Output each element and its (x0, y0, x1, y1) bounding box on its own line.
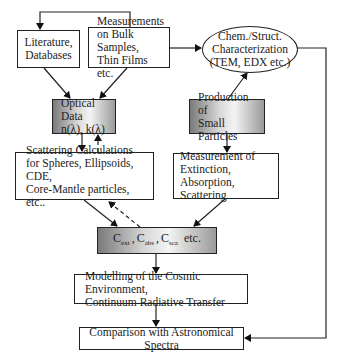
measurements-line-2: on Bulk Samples, (97, 28, 163, 54)
characterization-node: Chem./Struct. Characterization (TEM, EDX… (202, 26, 298, 73)
extinction-line-3: Scattering (180, 189, 272, 202)
extinction-node: Measurement of Extinction, Absorption, S… (173, 153, 279, 199)
literature-line-2: Databases (25, 49, 72, 62)
scattering-line-1: Scattering Calculations (26, 144, 147, 157)
literature-node: Literature, Databases (17, 30, 80, 68)
optical-data-node: Optical Data n(λ), k(λ) (52, 99, 116, 134)
production-line-2: Small Particles (198, 117, 258, 143)
cross-sections-node: Cext, Cabs, Csca etc. (97, 227, 217, 254)
comparison-node: Comparison with Astronomical Spectra (79, 327, 244, 350)
edge-extinction-crosssections (194, 199, 225, 226)
c-abs: Cabs (137, 232, 154, 250)
characterization-line-3: (TEM, EDX etc.) (210, 56, 290, 69)
comparison-line-1: Comparison with Astronomical Spectra (86, 326, 237, 352)
edge-literature-optical (44, 68, 70, 98)
scattering-line-3: Core-Mantle particles, etc.. (26, 183, 147, 209)
measurements-node: Measurements on Bulk Samples, Thin Films… (88, 27, 170, 68)
scattering-line-2: for Spheres, Ellipsoids, CDE, (26, 157, 147, 183)
optical-data-line-2: n(λ), k(λ) (61, 123, 109, 136)
modelling-line-1: Modelling of the Cosmic Environment, (85, 270, 241, 296)
characterization-line-2: Characterization (212, 43, 288, 56)
cross-sections-etc: etc. (184, 232, 201, 245)
optical-data-line-1: Optical Data (61, 97, 109, 123)
modelling-line-2: Continuum Radiative Transfer (85, 296, 241, 309)
cross-sections-label: Cext, Cabs, Csca etc. (104, 232, 210, 250)
c-ext: Cext (113, 232, 130, 250)
characterization-line-1: Chem./Struct. (218, 30, 282, 43)
production-node: Production of Small Particles (189, 99, 265, 134)
production-line-1: Production of (198, 91, 258, 117)
modelling-node: Modelling of the Cosmic Environment, Con… (74, 274, 248, 304)
extinction-line-1: Measurement of (180, 150, 272, 163)
scattering-node: Scattering Calculations for Spheres, Ell… (15, 152, 154, 200)
c-sca: Csca (161, 232, 178, 250)
extinction-line-2: Extinction, Absorption, (180, 163, 272, 189)
measurements-line-3: Thin Films etc. (97, 54, 163, 80)
literature-line-1: Literature, (24, 36, 72, 49)
measurements-line-1: Measurements (97, 15, 163, 28)
